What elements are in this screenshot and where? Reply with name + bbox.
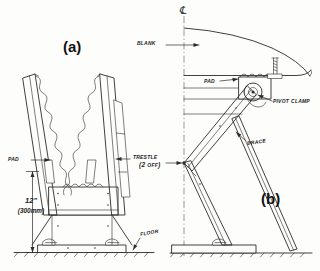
figure-label-b: (b) bbox=[261, 190, 280, 207]
base-plank-b bbox=[172, 245, 256, 253]
base-block-b bbox=[213, 239, 225, 245]
trestle-qty-label: (2 OFF) bbox=[139, 161, 160, 168]
base-block-left-a bbox=[43, 239, 55, 245]
floor-hatching-b bbox=[171, 253, 305, 257]
drawing-canvas bbox=[0, 0, 320, 271]
trestle-leg-edge-b bbox=[188, 90, 251, 167]
pad-label-a: PAD bbox=[8, 154, 19, 163]
screw-threads-b bbox=[272, 58, 279, 71]
base-plank-a bbox=[38, 245, 126, 253]
leader-blank-b bbox=[166, 43, 199, 47]
pivot-clamp-label: PIVOT CLAMP bbox=[273, 97, 310, 104]
dimension-metric: (300mm) bbox=[5, 206, 57, 216]
brace-marks-b bbox=[199, 183, 201, 185]
dimension-label: 12" (300mm) bbox=[5, 196, 57, 216]
floor-hatching-a bbox=[15, 253, 149, 257]
right-pad-cleat-a bbox=[86, 160, 96, 183]
dimension-imperial: 12" bbox=[5, 196, 57, 206]
leader-lines bbox=[31, 43, 272, 250]
figure-label-a: (a) bbox=[63, 38, 81, 55]
leader-pad-b bbox=[220, 78, 238, 82]
blank-lower-edge-b bbox=[184, 70, 311, 76]
leader-floor-a bbox=[133, 238, 140, 250]
blank-label: BLANK bbox=[137, 38, 156, 47]
blank-outline-b bbox=[184, 28, 310, 76]
left-pad-cleat-a bbox=[45, 160, 55, 183]
clamp-plate-b bbox=[268, 74, 282, 79]
cross-rail-a bbox=[49, 187, 118, 215]
trestle-hinge-node-b bbox=[182, 161, 185, 164]
right-leg-batten-a bbox=[114, 100, 130, 197]
lower-skirt-inner-a bbox=[52, 215, 112, 245]
figure-a-geometry bbox=[14, 74, 154, 257]
pad-label-b: PAD bbox=[204, 76, 215, 85]
trestle-lower-leg-b bbox=[184, 161, 232, 245]
technical-drawing-sheet: (a) (b) PAD TRESTLE (2 OFF) FLOOR BLANK … bbox=[0, 0, 320, 271]
centerline-symbol: ℄ bbox=[179, 4, 186, 17]
trestle-label: TRESTLE bbox=[133, 152, 157, 161]
leader-trestle-b bbox=[166, 161, 182, 165]
